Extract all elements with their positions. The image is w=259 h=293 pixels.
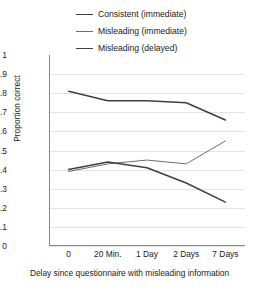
- y-axis-tick-label: 0: [0, 242, 7, 250]
- y-axis-tick-label: 0.3: [0, 185, 7, 193]
- y-axis-tick-label: 0.5: [0, 147, 7, 155]
- series-line: [69, 141, 226, 172]
- y-axis-tick-label: 0.6: [0, 127, 7, 135]
- y-axis-tick-label: 0.4: [0, 166, 7, 174]
- x-axis-tick-label: 7 Days: [195, 250, 255, 259]
- y-axis-tick-label: 0.2: [0, 204, 7, 212]
- y-axis-tick-label: 0.8: [0, 89, 7, 97]
- series-line: [69, 91, 226, 120]
- line-chart: Consistent (immediate) Misleading (immed…: [0, 0, 259, 293]
- y-axis-tick-label: 0.9: [0, 70, 7, 78]
- y-axis-tick-label: 0.1: [0, 223, 7, 231]
- y-axis-tick-label: 0.7: [0, 108, 7, 116]
- x-axis-label: Delay since questionnaire with misleadin…: [0, 269, 259, 278]
- y-axis-tick-label: 1: [0, 51, 7, 59]
- series-line: [69, 162, 226, 202]
